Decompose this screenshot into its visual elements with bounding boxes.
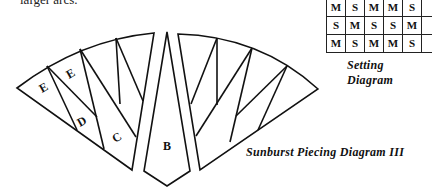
grid-cell: M	[384, 0, 403, 17]
grid-cell: M	[365, 35, 384, 53]
left-fan-seam	[80, 49, 136, 137]
piece-label-d: D	[75, 113, 90, 130]
setting-diagram-grid: M S M M S S M S S M M S M M S	[326, 0, 432, 53]
left-fan-outline	[17, 33, 154, 170]
grid-cell	[422, 0, 432, 17]
piece-label-b: B	[163, 139, 171, 153]
grid-cell: S	[346, 0, 365, 17]
grid-cell	[422, 17, 432, 35]
grid-cell: S	[346, 35, 365, 53]
setting-diagram-caption: Setting Diagram	[347, 58, 432, 88]
left-fan	[17, 33, 154, 170]
grid-cell: S	[384, 17, 403, 35]
piece-label-e: E	[37, 79, 51, 95]
right-fan-seam	[236, 66, 287, 116]
piece-label-c: C	[110, 129, 125, 145]
grid-cell: M	[346, 17, 365, 35]
grid-cell: M	[403, 17, 422, 35]
grid-cell: M	[327, 35, 346, 53]
left-fan-seam	[80, 49, 104, 149]
right-fan-seam	[196, 48, 252, 136]
left-fan-seam	[116, 38, 143, 101]
grid-row: M S M M S	[327, 35, 432, 53]
grid-cell: S	[403, 0, 422, 17]
right-fan-seam	[191, 38, 217, 104]
grid-cell: S	[403, 35, 422, 53]
grid-cell: S	[365, 17, 384, 35]
grid-cell: S	[327, 17, 346, 35]
grid-row: M S M M S	[327, 0, 432, 17]
right-fan-seam	[230, 48, 252, 142]
grid-cell: M	[327, 0, 346, 17]
grid-row: S M S S M	[327, 17, 432, 35]
grid-cell	[422, 35, 432, 53]
sunburst-diagram-caption: Sunburst Piecing Diagram III	[246, 145, 404, 160]
grid-cell: M	[384, 35, 403, 53]
piece-label-e: E	[64, 65, 78, 81]
grid-cell: M	[365, 0, 384, 17]
